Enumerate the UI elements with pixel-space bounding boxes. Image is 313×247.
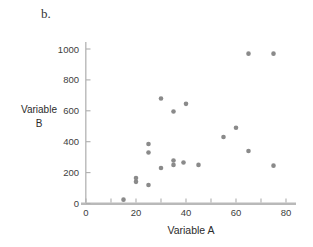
x-tick-label: 20: [131, 207, 142, 218]
x-axis-label: Variable A: [86, 224, 296, 236]
y-tick-label: 400: [63, 136, 79, 147]
data-point: [184, 102, 189, 107]
data-point: [171, 109, 176, 114]
data-point: [246, 149, 251, 154]
data-point: [134, 176, 139, 181]
x-tick-label: 60: [231, 207, 242, 218]
y-tick-label: 1000: [58, 44, 79, 55]
y-tick-label: 800: [63, 74, 79, 85]
data-point: [271, 51, 276, 56]
x-tick-label: 80: [281, 207, 292, 218]
data-point: [181, 160, 186, 165]
data-point: [271, 163, 276, 168]
data-point: [196, 163, 201, 168]
scatter-plot-svg: 02040608002004006008001000: [0, 0, 313, 247]
data-point: [171, 158, 176, 163]
y-tick-label: 200: [63, 167, 79, 178]
data-point: [121, 197, 126, 202]
data-point: [146, 183, 151, 188]
data-point: [159, 96, 164, 101]
data-point: [221, 135, 226, 140]
data-point: [146, 142, 151, 147]
x-tick-label: 0: [83, 207, 88, 218]
y-tick-label: 600: [63, 105, 79, 116]
y-tick-label: 0: [74, 198, 79, 209]
data-point: [171, 163, 176, 168]
data-point: [146, 150, 151, 155]
x-tick-label: 40: [181, 207, 192, 218]
scatter-figure: b. Variable B 02040608002004006008001000…: [0, 0, 313, 247]
data-point: [234, 125, 239, 130]
data-point: [246, 51, 251, 56]
data-point: [159, 166, 164, 171]
